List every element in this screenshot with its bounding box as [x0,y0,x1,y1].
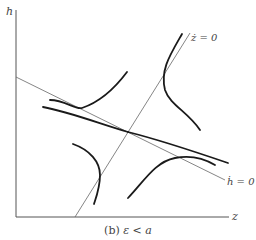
z-dot-zero-label: ż = 0 [191,33,217,43]
figure-caption: (b) ε < a [0,224,256,237]
caption-prefix: (b) [104,224,120,237]
trajectory-lower-right [128,157,215,198]
caption-condition: ε < a [123,224,152,237]
trajectory-lower-left [73,144,100,204]
h-axis-label: h [6,6,13,17]
stable-manifold-left [43,107,128,132]
trajectory-upper-left [50,72,127,108]
trajectories [43,34,228,204]
z-dot-zero-line [75,33,190,217]
phase-portrait [0,0,256,240]
trajectory-upper-right [164,34,200,130]
h-dot-zero-line [16,77,225,180]
z-axis-label: z [232,211,238,222]
h-dot-zero-label: ḣ = 0 [227,177,255,187]
nullclines [16,33,225,217]
